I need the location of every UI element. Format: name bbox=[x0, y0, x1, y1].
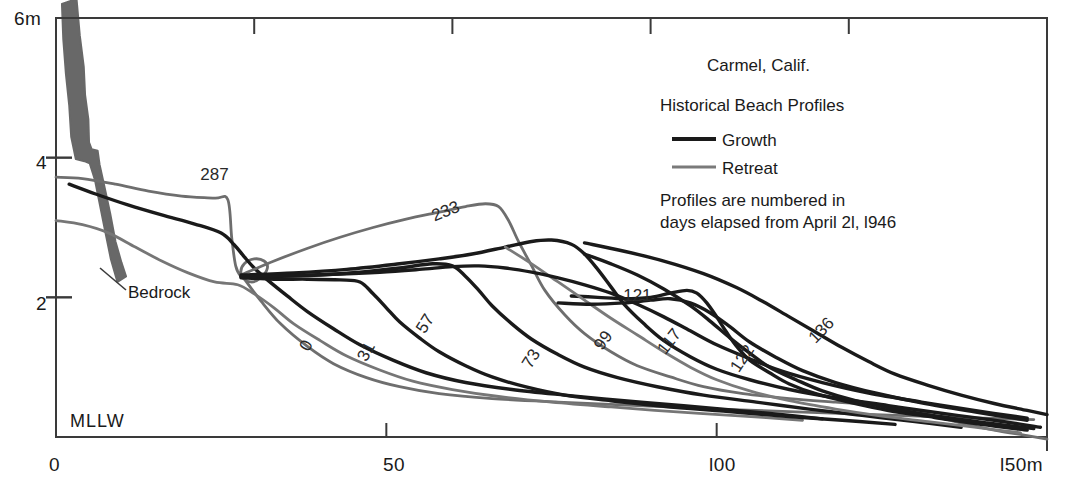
legend-label-growth: Growth bbox=[722, 130, 777, 153]
note-line-2: days elapsed from April 2l, l946 bbox=[660, 212, 896, 235]
x-tick-label-100: l00 bbox=[709, 452, 736, 478]
profile-curve-99 bbox=[241, 240, 1040, 427]
y-tick-label-6m: 6m bbox=[14, 6, 41, 32]
x-tick-label-50: 50 bbox=[383, 452, 405, 478]
legend-swatches bbox=[672, 139, 716, 167]
note-line-1: Profiles are numbered in bbox=[660, 190, 845, 213]
chart-canvas bbox=[0, 0, 1071, 495]
legend-label-retreat: Retreat bbox=[722, 158, 778, 181]
datum-label-mllw: MLLW bbox=[70, 409, 125, 433]
y-tick-label-2: 2 bbox=[36, 291, 47, 317]
bedrock-shape bbox=[62, 0, 126, 282]
profile-label-121: 121 bbox=[623, 284, 651, 307]
bedrock-label: Bedrock bbox=[128, 282, 190, 305]
x-tick-label-0: 0 bbox=[49, 452, 60, 478]
x-tick-label-150m: l50m bbox=[1000, 452, 1043, 478]
location-title: Carmel, Calif. bbox=[707, 55, 810, 78]
axes-frame bbox=[46, 18, 1047, 451]
y-tick-label-4: 4 bbox=[36, 150, 47, 176]
beach-profile-figure: 6m 4 2 0 50 l00 l50m MLLW Bedrock Carmel… bbox=[0, 0, 1071, 495]
profile-label-287: 287 bbox=[200, 164, 228, 187]
chart-title: Historical Beach Profiles bbox=[660, 95, 844, 118]
profile-curves bbox=[56, 177, 1047, 439]
